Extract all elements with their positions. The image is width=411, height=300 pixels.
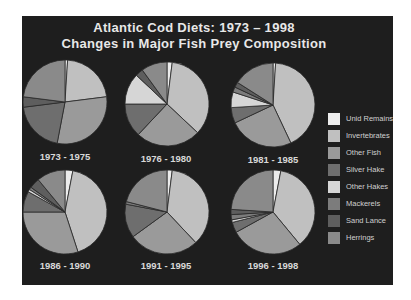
pie-label-1981-1985: 1981 - 1985 [228, 154, 318, 165]
legend-swatch [328, 181, 340, 193]
legend-swatch [328, 130, 340, 142]
pie-label-1986-1990: 1986 - 1990 [20, 260, 110, 271]
legend-swatch [328, 113, 340, 125]
legend-swatch [328, 147, 340, 159]
pie-slice [231, 170, 273, 212]
pie-label-1996-1998: 1996 - 1998 [228, 260, 318, 271]
pie-label-1976-1980: 1976 - 1980 [121, 153, 211, 164]
pie-label-1973-1975: 1973 - 1975 [20, 151, 110, 162]
pie-1991-1995 [125, 170, 209, 254]
legend-swatch [328, 215, 340, 227]
pie-slice [65, 60, 107, 102]
pie-slice [23, 60, 65, 102]
pie-1976-1980 [125, 62, 209, 146]
legend-swatch [328, 164, 340, 176]
pie-1973-1975 [23, 60, 107, 144]
legend-swatch [328, 232, 340, 244]
pie-1981-1985 [231, 63, 315, 147]
chart-panel: Atlantic Cod Diets: 1973 – 1998 Changes … [22, 16, 393, 285]
legend-swatch [328, 198, 340, 210]
pie-label-1991-1995: 1991 - 1995 [121, 260, 211, 271]
pie-1986-1990 [23, 170, 107, 254]
pie-1996-1998 [231, 170, 315, 254]
